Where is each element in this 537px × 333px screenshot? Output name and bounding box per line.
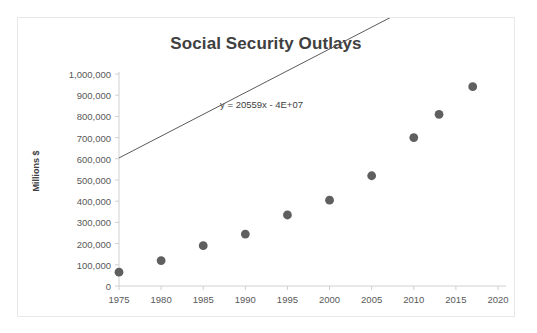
- data-point: [409, 133, 418, 142]
- data-point: [115, 268, 124, 277]
- x-axis-tick-label: 1995: [277, 294, 298, 305]
- y-axis-tick-label: 400,000: [38, 196, 111, 207]
- data-point: [435, 110, 444, 119]
- y-axis-tick-label: 1,000,000: [38, 69, 111, 80]
- data-point: [367, 171, 376, 180]
- x-axis-tick-label: 1975: [108, 294, 129, 305]
- x-axis-tick-label: 1990: [235, 294, 256, 305]
- y-axis-tick-label: 200,000: [38, 238, 111, 249]
- data-point: [157, 256, 166, 265]
- data-point: [468, 82, 477, 91]
- y-axis-tick-label: 600,000: [38, 153, 111, 164]
- x-axis-tick-label: 2010: [403, 294, 424, 305]
- x-axis-tick-label: 1980: [151, 294, 172, 305]
- y-axis-tick-label: 800,000: [38, 111, 111, 122]
- y-axis-tick-label: 900,000: [38, 90, 111, 101]
- plot-area: [18, 18, 516, 318]
- data-point: [241, 230, 250, 239]
- y-axis-tick-label: 500,000: [38, 175, 111, 186]
- data-point: [325, 196, 334, 205]
- data-point: [283, 211, 292, 220]
- y-axis-tick-label: 700,000: [38, 132, 111, 143]
- y-axis-tick-label: 300,000: [38, 217, 111, 228]
- data-point: [199, 241, 208, 250]
- y-axis-tick-label: 100,000: [38, 259, 111, 270]
- data-points: [115, 82, 478, 276]
- trendline: [119, 18, 490, 158]
- x-axis-tick-label: 1985: [193, 294, 214, 305]
- y-axis-tick-label: 0: [38, 281, 111, 292]
- x-axis-tick-label: 2005: [361, 294, 382, 305]
- chart-container: Social Security Outlays Millions $ y = 2…: [17, 17, 515, 317]
- axis-tick-marks: [115, 74, 498, 290]
- x-axis-tick-label: 2000: [319, 294, 340, 305]
- x-axis-tick-label: 2020: [487, 294, 508, 305]
- x-axis-tick-label: 2015: [445, 294, 466, 305]
